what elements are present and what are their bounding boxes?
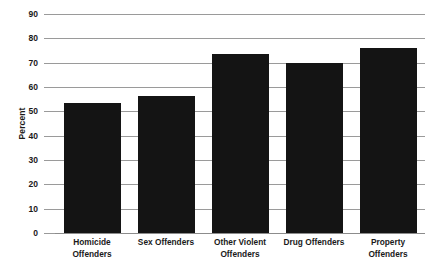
y-tick-label-20: 20 <box>0 179 38 189</box>
y-tick-70 <box>44 63 55 64</box>
y-tick-label-0: 0 <box>0 228 38 238</box>
x-axis-label-line: Offenders <box>345 249 431 261</box>
y-tick-20 <box>44 184 55 185</box>
y-tick-60 <box>44 87 55 88</box>
bar-series <box>55 14 425 233</box>
y-tick-label-80: 80 <box>0 33 38 43</box>
y-tick-0 <box>44 233 55 234</box>
y-tick-80 <box>44 38 55 39</box>
y-tick-label-10: 10 <box>0 204 38 214</box>
y-tick-label-50: 50 <box>0 106 38 116</box>
bar-5 <box>360 48 417 233</box>
y-tick-label-60: 60 <box>0 82 38 92</box>
plot-area <box>55 14 425 233</box>
y-tick-30 <box>44 160 55 161</box>
y-tick-label-90: 90 <box>0 9 38 19</box>
bar-2 <box>138 96 195 233</box>
y-tick-label-30: 30 <box>0 155 38 165</box>
y-tick-10 <box>44 209 55 210</box>
y-tick-90 <box>44 14 55 15</box>
y-tick-label-70: 70 <box>0 58 38 68</box>
y-tick-50 <box>44 111 55 112</box>
y-tick-label-40: 40 <box>0 131 38 141</box>
bar-chart: Percent HomicideOffendersSex OffendersOt… <box>0 0 436 276</box>
y-tick-40 <box>44 136 55 137</box>
bar-1 <box>64 103 121 233</box>
bar-3 <box>212 54 269 233</box>
bar-4 <box>286 63 343 233</box>
y-axis-title: Percent <box>14 14 30 233</box>
x-axis-label-line: Offenders <box>49 249 135 261</box>
x-axis-label-5: PropertyOffenders <box>345 237 431 260</box>
x-axis-labels: HomicideOffendersSex OffendersOther Viol… <box>55 237 425 273</box>
gridline-0 <box>55 233 425 234</box>
x-axis-label-line: Property <box>345 237 431 249</box>
x-axis-label-line: Offenders <box>197 249 283 261</box>
